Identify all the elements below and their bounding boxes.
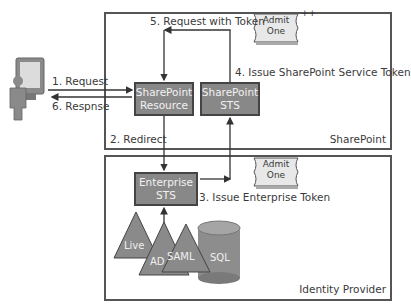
sharepoint-resource-node: SharePointResource: [134, 82, 194, 116]
store-ad-label: AD: [150, 256, 165, 267]
enterprise-ticket-text: AdmitOne: [258, 159, 294, 181]
store-saml-label: SAML: [167, 251, 195, 262]
step-2-redirect-label: 2. Redirect: [110, 133, 167, 145]
store-live-label: Live: [124, 240, 144, 251]
step-4-issue-sharepoint-token-label: 4. Issue SharePoint Service Token: [235, 66, 411, 78]
user-computer-icon: [10, 58, 44, 120]
step-1-request-label: 1. Request: [52, 75, 108, 87]
step-5-request-with-token-label: 5. Request with Token: [150, 15, 265, 27]
sharepoint-zone-label: SharePoint: [330, 133, 386, 145]
step-6-response-label: 6. Respnse: [52, 100, 109, 112]
enterprise-sts-node: EnterpriseSTS: [134, 172, 198, 206]
store-sql-label: SQL: [210, 252, 230, 263]
plus-plus-mark: ++: [301, 8, 316, 18]
sp-ticket-text: AdmitOne: [258, 15, 294, 37]
identity-provider-zone-label: Identity Provider: [299, 283, 386, 295]
sharepoint-sts-node: SharePointSTS: [200, 82, 260, 116]
step-3-issue-enterprise-token-label: 3. Issue Enterprise Token: [199, 191, 330, 203]
